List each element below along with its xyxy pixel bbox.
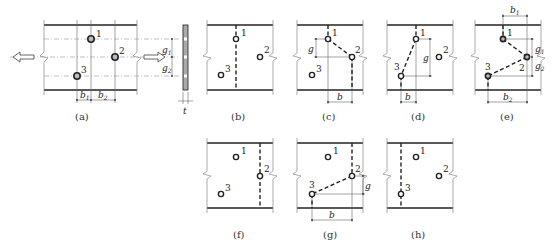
dim-t: t (183, 106, 187, 116)
panel-b: 1 2 3 (b) (203, 20, 277, 122)
panel-d: g b 1 2 3 (d) (383, 20, 457, 122)
dim-b: b (329, 210, 335, 220)
dim-g2: g2 (162, 63, 172, 74)
panel-e: b1 g1 g2 b2 1 2 3 (e) (471, 5, 545, 122)
svg-text:3: 3 (309, 180, 315, 190)
dim-b1: b1 (510, 5, 520, 16)
dim-b1: b1 (80, 90, 90, 101)
svg-text:1: 1 (420, 146, 426, 156)
svg-text:3: 3 (225, 64, 231, 74)
panel-a: 1 2 3 b1 b2 g1 g2 t (a) (10, 20, 193, 122)
hole-2 (112, 54, 118, 60)
svg-text:2: 2 (355, 45, 361, 55)
svg-text:3: 3 (485, 62, 491, 72)
svg-text:3: 3 (316, 64, 322, 74)
panel-f: 1 2 3 (f) (203, 138, 277, 240)
panel-label-e: (e) (500, 111, 514, 122)
svg-text:2: 2 (355, 164, 361, 174)
bolt-net-section-figure: 1 2 3 b1 b2 g1 g2 t (a) 1 2 3 (0, 0, 558, 248)
panel-c: g b 1 2 3 (c) (293, 20, 367, 122)
dim-b: b (405, 92, 411, 102)
failure-path (312, 176, 352, 194)
svg-text:1: 1 (333, 146, 339, 156)
panel-label-d: (d) (411, 111, 425, 122)
panel-g: g b 1 2 3 (g) (293, 138, 371, 240)
dim-g: g (365, 181, 371, 191)
svg-text:2: 2 (264, 45, 270, 55)
dim-g1: g1 (162, 45, 172, 56)
failure-path (328, 39, 352, 57)
hole-1 (88, 36, 94, 42)
svg-text:3: 3 (405, 183, 411, 193)
dim-g: g (423, 53, 429, 63)
panel-label-b: (b) (231, 111, 245, 122)
svg-text:2: 2 (519, 63, 525, 73)
hole-label-2: 2 (119, 46, 125, 56)
dim-g2: g2 (535, 61, 545, 72)
panel-label-h: (h) (411, 229, 425, 240)
svg-text:2: 2 (443, 164, 449, 174)
dim-g: g (308, 44, 314, 54)
hole-3 (74, 73, 80, 79)
panel-h: 1 2 3 (h) (383, 138, 457, 240)
panel-label-c: (c) (322, 111, 336, 122)
failure-path (503, 39, 527, 57)
dim-b: b (337, 92, 343, 102)
svg-text:1: 1 (241, 28, 247, 38)
panel-label-f: (f) (233, 229, 245, 240)
failure-path (401, 39, 416, 76)
dim-b2: b2 (98, 90, 108, 101)
svg-text:2: 2 (264, 164, 270, 174)
panel-label-a: (a) (75, 111, 89, 122)
svg-text:1: 1 (420, 28, 426, 38)
tension-arrow-left (13, 52, 34, 62)
svg-text:3: 3 (394, 62, 400, 72)
svg-text:1: 1 (332, 28, 338, 38)
dim-b2: b2 (503, 92, 513, 103)
panel-label-g: (g) (323, 229, 337, 240)
hole-label-1: 1 (96, 29, 102, 39)
svg-text:2: 2 (443, 45, 449, 55)
dim-g1: g1 (535, 44, 545, 55)
svg-text:3: 3 (225, 183, 231, 193)
hole-label-3: 3 (81, 65, 87, 75)
svg-text:1: 1 (507, 28, 513, 38)
svg-text:1: 1 (241, 146, 247, 156)
